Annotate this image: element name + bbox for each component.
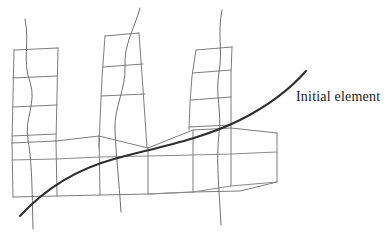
initial-element-curve [20, 71, 306, 216]
wavy-line-left [25, 19, 33, 229]
left-tower [12, 48, 58, 143]
right-tower [189, 47, 232, 130]
initial-element-label: Initial element [296, 89, 380, 105]
wavy-line-right [218, 10, 222, 225]
base-slab [12, 128, 277, 197]
middle-tower [99, 33, 147, 148]
mesh-diagram [0, 0, 385, 232]
wavy-line-middle [115, 8, 140, 212]
